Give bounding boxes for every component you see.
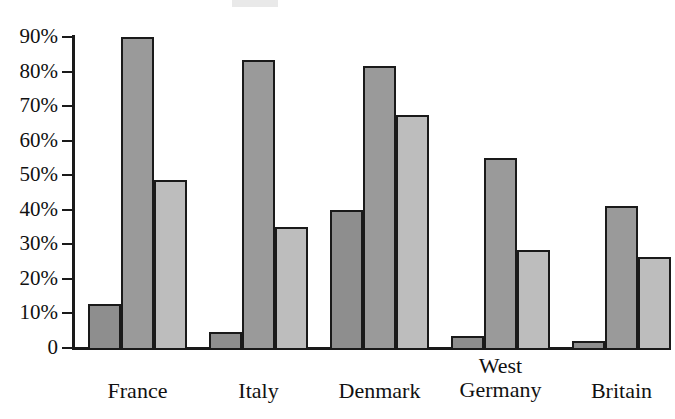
bar <box>330 210 363 350</box>
y-tick-60 <box>62 140 74 142</box>
y-tick-50 <box>62 174 74 176</box>
bar <box>121 37 154 350</box>
bar <box>275 227 308 350</box>
bar <box>209 332 242 350</box>
y-tick-label-90: 90% <box>0 26 58 47</box>
y-tick-label-50: 50% <box>0 164 58 185</box>
bar <box>242 60 275 350</box>
y-tick-label-30: 30% <box>0 233 58 254</box>
scan-artifact <box>232 0 278 7</box>
y-tick-30 <box>62 243 74 245</box>
bar <box>517 250 550 350</box>
y-tick-label-80: 80% <box>0 61 58 82</box>
y-tick-20 <box>62 278 74 280</box>
bar <box>396 115 429 350</box>
bar <box>605 206 638 350</box>
y-tick-label-10: 10% <box>0 302 58 323</box>
bar <box>88 304 121 350</box>
y-tick-10 <box>62 312 74 314</box>
y-tick-label-40: 40% <box>0 199 58 220</box>
x-axis-label-britain: Britain <box>542 379 675 403</box>
y-tick-40 <box>62 209 74 211</box>
bar <box>572 341 605 350</box>
bar <box>363 66 396 350</box>
y-tick-label-20: 20% <box>0 268 58 289</box>
y-tick-80 <box>62 71 74 73</box>
y-tick-label-0: 0 <box>0 337 58 358</box>
y-tick-0 <box>62 347 74 349</box>
bar <box>154 180 187 350</box>
y-tick-90 <box>62 36 74 38</box>
bar <box>484 158 517 350</box>
y-tick-label-60: 60% <box>0 130 58 151</box>
y-axis-line <box>72 35 75 350</box>
bar <box>638 257 671 350</box>
y-tick-label-70: 70% <box>0 95 58 116</box>
y-tick-70 <box>62 105 74 107</box>
bar <box>451 336 484 350</box>
